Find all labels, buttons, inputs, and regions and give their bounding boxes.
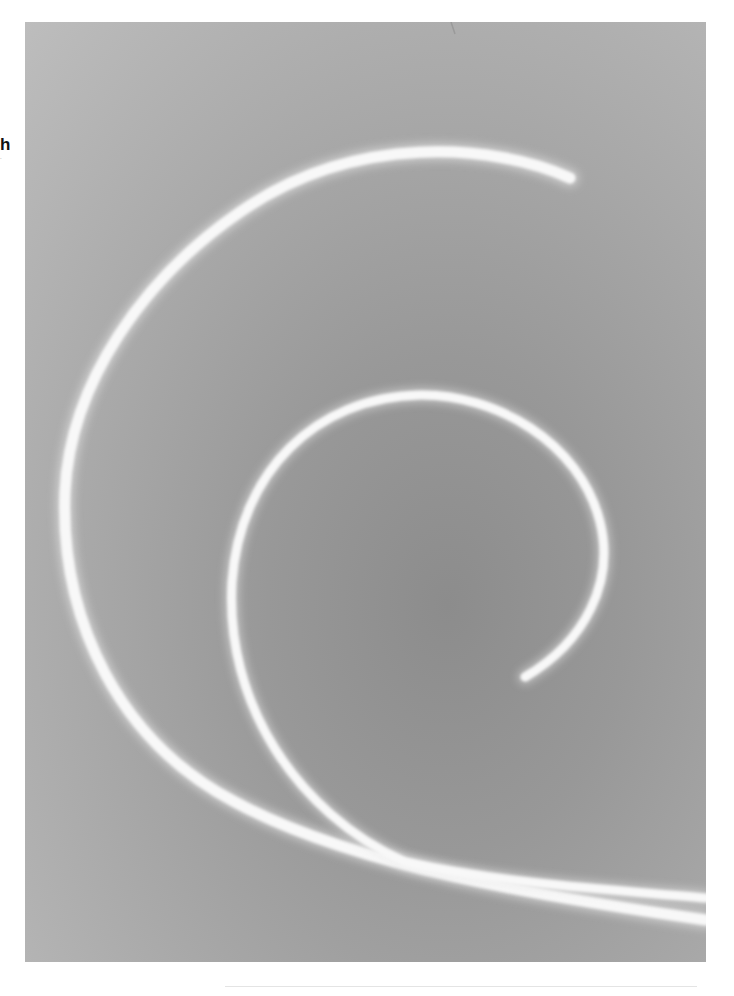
inner-spiral-trail: [232, 395, 706, 898]
trails-graphic: [25, 22, 706, 962]
scratch-mark: [451, 22, 455, 34]
spiral-trail-photograph: [25, 22, 706, 962]
margin-mark: .: [0, 154, 2, 160]
margin-letter: h: [0, 136, 10, 153]
page-rule: [225, 986, 697, 987]
